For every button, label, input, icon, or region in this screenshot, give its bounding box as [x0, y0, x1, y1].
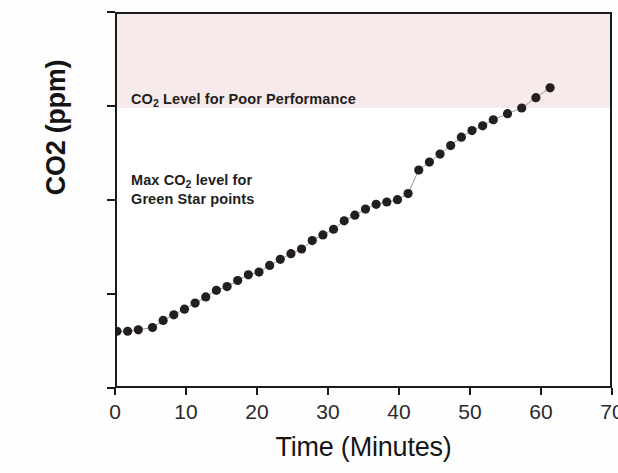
- x-tick-mark: [185, 388, 187, 395]
- data-point: [414, 165, 423, 174]
- data-point: [457, 133, 466, 142]
- y-tick-mark: [107, 105, 115, 107]
- data-point: [233, 276, 242, 285]
- data-point: [297, 244, 306, 253]
- data-point: [276, 255, 285, 264]
- data-point: [159, 316, 168, 325]
- data-series-layer: [117, 14, 612, 388]
- x-tick-mark: [611, 388, 613, 395]
- data-point: [212, 286, 221, 295]
- data-point: [254, 267, 263, 276]
- data-point: [531, 93, 540, 102]
- x-tick-label: 20: [227, 400, 287, 424]
- x-tick-label: 70: [582, 400, 618, 424]
- data-point: [361, 204, 370, 213]
- x-axis-title: Time (Minutes): [115, 432, 612, 463]
- data-point: [404, 189, 413, 198]
- data-point: [503, 109, 512, 118]
- x-tick-label: 60: [511, 400, 571, 424]
- data-point: [546, 83, 555, 92]
- data-point: [467, 126, 476, 135]
- data-point: [244, 270, 253, 279]
- y-tick-mark: [107, 293, 115, 295]
- y-axis-title: CO2 (ppm): [41, 0, 72, 258]
- data-point: [489, 115, 498, 124]
- data-point: [393, 195, 402, 204]
- data-point: [134, 325, 143, 334]
- data-point: [180, 305, 189, 314]
- data-point: [191, 298, 200, 307]
- x-tick-mark: [469, 388, 471, 395]
- data-point: [117, 327, 122, 336]
- chart-figure: CO2 (ppm) CO2 Level for Poor Performance…: [0, 0, 618, 473]
- data-point: [350, 211, 359, 220]
- data-point: [446, 141, 455, 150]
- data-point: [318, 230, 327, 239]
- x-tick-label: 10: [156, 400, 216, 424]
- data-point: [435, 149, 444, 158]
- data-point: [265, 261, 274, 270]
- x-tick-mark: [256, 388, 258, 395]
- x-tick-label: 30: [298, 400, 358, 424]
- y-tick-mark: [107, 199, 115, 201]
- data-point: [123, 327, 132, 336]
- x-tick-label: 40: [369, 400, 429, 424]
- x-tick-mark: [114, 388, 116, 395]
- data-point: [308, 236, 317, 245]
- y-tick-mark: [107, 11, 115, 13]
- data-point: [340, 216, 349, 225]
- data-point: [517, 103, 526, 112]
- data-point: [201, 292, 210, 301]
- x-tick-mark: [540, 388, 542, 395]
- data-point: [478, 121, 487, 130]
- x-tick-mark: [398, 388, 400, 395]
- x-tick-label: 50: [440, 400, 500, 424]
- x-tick-label: 0: [85, 400, 145, 424]
- data-point: [329, 225, 338, 234]
- data-point: [382, 197, 391, 206]
- data-point: [169, 310, 178, 319]
- data-point: [286, 249, 295, 258]
- data-point: [148, 323, 157, 332]
- data-point: [425, 157, 434, 166]
- x-tick-mark: [327, 388, 329, 395]
- data-point: [222, 282, 231, 291]
- data-point: [372, 200, 381, 209]
- plot-area: CO2 Level for Poor Performance Max CO2 l…: [115, 12, 612, 388]
